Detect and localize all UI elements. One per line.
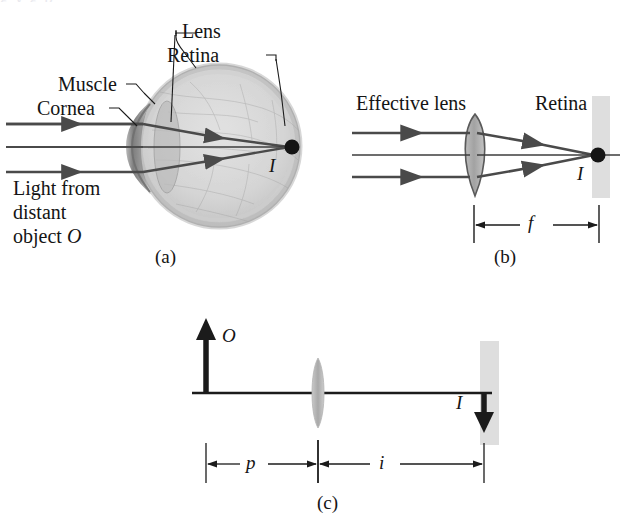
label-image-c: I — [456, 392, 462, 414]
object-arrow-head — [196, 318, 216, 340]
label-distant: distant — [13, 201, 66, 225]
panel-c-diagram — [192, 318, 499, 483]
muscle-leader-line — [126, 84, 144, 93]
label-cornea: Cornea — [37, 97, 95, 121]
panel-label-a: (a) — [155, 246, 176, 268]
optics-eye-figure: g y g p — [0, 0, 631, 523]
label-focal-length: f — [528, 212, 533, 234]
label-muscle: Muscle — [58, 73, 117, 97]
label-retina-a: Retina — [167, 44, 219, 68]
panel-label-b: (b) — [494, 246, 516, 268]
panel-label-c: (c) — [317, 492, 338, 514]
cornea-leader-line — [109, 108, 127, 116]
label-retina-b: Retina — [535, 92, 587, 116]
label-image-distance: i — [379, 452, 384, 474]
label-effective-lens: Effective lens — [356, 92, 466, 116]
label-object-word: object — [13, 225, 67, 247]
image-point-a — [285, 140, 300, 155]
label-image-point-b: I — [577, 163, 583, 185]
label-object: object O — [13, 225, 81, 249]
image-point-b — [591, 148, 606, 163]
label-object-distance: p — [246, 452, 256, 474]
thin-lens-c — [312, 358, 324, 428]
converging-ray-b-top — [477, 133, 594, 155]
label-lens: Lens — [182, 20, 221, 44]
label-object-symbol: O — [67, 225, 81, 247]
retina-leader-hook — [266, 55, 276, 61]
label-light-from: Light from — [13, 177, 100, 201]
label-object-c: O — [222, 325, 236, 347]
label-image-point-a: I — [269, 155, 275, 177]
retina-screen-b — [592, 96, 610, 198]
